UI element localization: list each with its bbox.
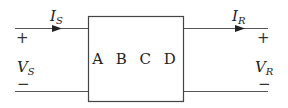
sending-current-label: IS — [50, 9, 63, 26]
abcd-block-label: A B C D — [88, 16, 184, 102]
sending-current-arrow-icon — [52, 25, 62, 32]
sending-plus-sign: + — [16, 31, 29, 46]
receiving-minus-sign: − — [258, 77, 271, 92]
sending-minus-sign: − — [17, 77, 30, 92]
receiving-current-label: IR — [232, 9, 245, 26]
receiving-current-arrow-icon — [235, 25, 245, 32]
receiving-plus-sign: + — [257, 31, 270, 46]
